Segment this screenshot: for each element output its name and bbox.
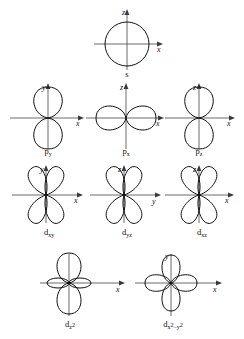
axis-arrow-vertical <box>46 83 51 89</box>
orbital-label-d-z2-sup: 2 <box>72 322 75 328</box>
axis-arrow-horizontal <box>119 281 125 286</box>
orbital-label-p-y-sub: y <box>49 151 52 157</box>
orbital-svg-d-yz: z y <box>88 163 170 225</box>
axis-label-vertical-z: z <box>119 83 124 92</box>
orbital-svg-p-x: z x <box>83 81 169 151</box>
orbital-cell-p-z: z x <box>163 81 241 151</box>
orbital-label-d-z2: dz2 <box>44 320 96 329</box>
axis-arrow-vertical <box>197 165 202 171</box>
orbital-svg-p-z: z x <box>163 81 241 151</box>
orbital-lobe-lower-right <box>45 195 64 223</box>
orbital-cell-d-x2-y2: y x <box>133 250 233 318</box>
orbital-label-d-xz: dxz <box>173 228 231 237</box>
axis-label-horizontal-x: x <box>226 119 231 128</box>
orbital-label-d-xy: dxy <box>20 228 78 237</box>
orbital-label-p-x: px <box>97 147 155 156</box>
orbital-svg-d-xy: y x <box>10 163 92 225</box>
axis-arrow-vertical <box>44 165 49 171</box>
axis-label-horizontal-x: x <box>115 285 120 294</box>
orbital-lobe-lower-left <box>28 195 47 223</box>
axis-label-horizontal-y: y <box>151 197 156 206</box>
axis-label-vertical-y: y <box>39 165 44 174</box>
orbital-cell-p-y: y x <box>8 81 88 151</box>
orbital-label-d-x2-y2-sup-b: 2 <box>180 322 183 328</box>
orbital-label-p-z: pz <box>170 147 228 156</box>
orbital-label-d-yz: dyz <box>98 228 156 237</box>
axis-label-vertical-z: z <box>121 8 126 17</box>
orbital-label-d-xz-sub: xz <box>201 232 207 238</box>
orbital-lobe-lower-right <box>123 195 142 223</box>
axis-arrow-vertical <box>122 165 127 171</box>
axis-label-horizontal-x: x <box>156 45 161 54</box>
orbital-lobe-lower-right <box>198 195 217 223</box>
axis-arrow-vertical <box>125 9 130 15</box>
orbital-cell-s: z x <box>88 6 166 74</box>
axis-label-vertical-y: y <box>41 83 46 92</box>
orbital-label-d-x2-y2: dx2−y2 <box>138 320 208 329</box>
orbital-cell-p-x: z x <box>83 81 169 151</box>
axis-arrow-horizontal <box>228 193 234 198</box>
orbital-label-s: s <box>98 70 156 79</box>
orbital-label-p-x-sub: x <box>127 151 130 157</box>
orbital-cell-d-yz: z y <box>88 163 170 225</box>
axis-arrow-horizontal <box>155 193 161 198</box>
orbital-label-p-y: py <box>19 147 77 156</box>
orbital-label-s-main: s <box>125 69 128 79</box>
axis-label-horizontal-x: x <box>73 196 78 205</box>
orbital-cell-d-z2: x <box>38 250 134 318</box>
axis-arrow-horizontal <box>216 281 222 286</box>
axis-label-horizontal-x: x <box>155 119 160 128</box>
orbital-cell-d-xy: y x <box>10 163 92 225</box>
orbital-lobe-lower-left <box>181 195 200 223</box>
orbital-svg-s: z x <box>88 6 166 74</box>
axis-arrow-vertical <box>197 83 202 89</box>
orbital-lobe-lower-left <box>106 195 125 223</box>
axis-label-horizontal-x: x <box>224 196 229 205</box>
axis-label-horizontal-x: x <box>212 285 217 294</box>
orbital-svg-p-y: y x <box>8 81 88 151</box>
orbital-label-p-z-sub: z <box>200 151 203 157</box>
orbital-label-p-x-main: p <box>122 146 126 156</box>
orbital-svg-d-x2-y2: y x <box>133 250 233 318</box>
orbital-label-d-yz-sub: yz <box>126 232 132 238</box>
orbital-label-d-xy-sub: xy <box>48 232 54 238</box>
axis-label-horizontal-x: x <box>75 119 80 128</box>
orbital-svg-d-z2: x <box>38 250 134 318</box>
axis-arrow-vertical <box>124 83 129 89</box>
orbital-svg-d-xz: z x <box>163 163 243 225</box>
axis-label-vertical-y: y <box>164 252 169 261</box>
orbital-label-p-y-main: p <box>44 146 48 156</box>
orbital-diagram: z x s y x py z x <box>0 0 244 339</box>
axis-arrow-horizontal <box>77 193 83 198</box>
orbital-cell-d-xz: z x <box>163 163 243 225</box>
